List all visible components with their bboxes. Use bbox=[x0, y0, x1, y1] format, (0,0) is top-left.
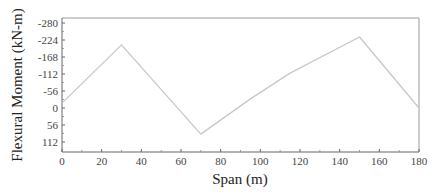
y-tick-label: 0 bbox=[53, 102, 59, 114]
y-tick-label: -224 bbox=[38, 34, 59, 46]
moment-line bbox=[62, 37, 419, 134]
x-tick-label: 120 bbox=[292, 155, 309, 167]
x-tick-label: 60 bbox=[176, 155, 188, 167]
x-tick-label: 180 bbox=[411, 155, 428, 167]
x-tick-label: 20 bbox=[96, 155, 108, 167]
x-tick-label: 100 bbox=[252, 155, 269, 167]
flexural-moment-chart: 020406080100120140160180 -280-224-168-11… bbox=[0, 0, 446, 193]
y-axis-title: Flexural Moment (kN-m) bbox=[9, 8, 26, 161]
x-tick-label: 80 bbox=[215, 155, 227, 167]
x-tick-label: 140 bbox=[331, 155, 348, 167]
y-tick-label: -56 bbox=[43, 85, 58, 97]
y-tick-label: -168 bbox=[38, 51, 59, 63]
y-tick-label: 56 bbox=[47, 119, 59, 131]
plot-frame bbox=[62, 18, 419, 152]
y-axis-ticks: -280-224-168-112-56056112 bbox=[38, 17, 65, 148]
moment-line-series bbox=[62, 37, 419, 134]
x-tick-label: 0 bbox=[59, 155, 65, 167]
x-tick-label: 40 bbox=[136, 155, 148, 167]
y-tick-label: -112 bbox=[38, 68, 58, 80]
y-tick-label: -280 bbox=[38, 17, 59, 29]
x-tick-label: 160 bbox=[371, 155, 388, 167]
y-tick-label: 112 bbox=[42, 136, 58, 148]
x-axis-title: Span (m) bbox=[212, 171, 267, 188]
